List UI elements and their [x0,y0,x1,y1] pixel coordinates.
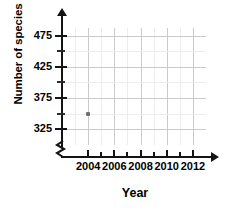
y-axis-tick [55,35,67,37]
y-axis-tick [55,97,67,99]
axis-break-icon [53,140,69,158]
y-axis-arrow-icon [57,8,67,16]
x-axis-tick-label: 2012 [173,161,213,172]
gridline-vertical [88,28,89,145]
y-axis-title: Number of species [12,0,24,119]
x-axis-tick [166,150,168,158]
gridline-horizontal [62,67,206,68]
y-axis-tick-label: 325 [16,123,52,134]
gridline-vertical [154,28,155,145]
x-axis-line [61,156,213,158]
y-axis-tick-minor [57,113,65,115]
x-axis-tick-minor [100,152,102,158]
gridline-horizontal [62,114,206,115]
gridline-vertical [167,28,168,145]
gridline-vertical [180,28,181,145]
x-axis-tick-minor [126,152,128,158]
gridline-vertical [193,28,194,145]
x-axis-tick [87,150,89,158]
scatter-chart: 325375425475 20042006200820102012 Number… [0,0,229,213]
data-point [86,112,90,116]
gridline-vertical [114,28,115,145]
x-axis-tick [192,150,194,158]
gridline-horizontal [62,51,206,52]
x-axis-tick [140,150,142,158]
gridline-horizontal [62,82,206,83]
y-axis-tick [55,128,67,130]
gridline-vertical [127,28,128,145]
gridline-vertical [141,28,142,145]
x-axis-tick-minor [179,152,181,158]
x-axis-tick [113,150,115,158]
gridline-horizontal [62,129,206,130]
plot-area [62,28,206,145]
gridline-vertical [75,28,76,145]
x-axis-tick-minor [153,152,155,158]
y-axis-tick [55,66,67,68]
gridline-horizontal [62,98,206,99]
y-axis-tick-minor [57,81,65,83]
gridline-horizontal [62,36,206,37]
gridline-vertical [101,28,102,145]
x-axis-title: Year [60,186,210,200]
y-axis-tick-minor [57,50,65,52]
